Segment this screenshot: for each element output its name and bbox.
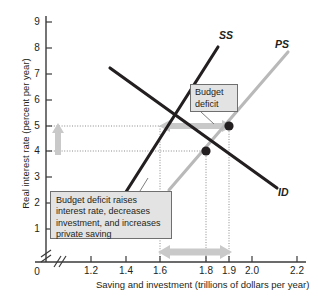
- curves: [110, 47, 288, 195]
- x-tick-label-1-4: 1.4: [113, 265, 139, 276]
- x-tick-label-2-0: 2.0: [239, 265, 265, 276]
- callout-explanation: Budget deficit raises interest rate, dec…: [50, 191, 172, 239]
- x-axis-title: Saving and investment (trillions of doll…: [96, 279, 309, 290]
- interest-rate-rise-arrow: [52, 123, 64, 155]
- equilibrium-dot-original: [224, 121, 233, 130]
- x-axis-ticks: [91, 256, 297, 262]
- curve-label-ss: SS: [219, 29, 233, 41]
- explanation-leader: [140, 178, 148, 191]
- curve-label-ps: PS: [275, 38, 289, 50]
- callout-explanation-line2: interest rate, decreases: [56, 206, 166, 217]
- x-tick-label-1-2: 1.2: [78, 265, 104, 276]
- x-tick-label-1-6: 1.6: [147, 265, 173, 276]
- curve-ps-line: [169, 52, 288, 190]
- private-saving-increase-arrow: [158, 245, 232, 259]
- budget-deficit-leader: [201, 112, 214, 124]
- equilibrium-dot-new: [201, 146, 210, 155]
- curve-ss-line: [124, 47, 218, 195]
- callout-explanation-line4: private saving: [56, 229, 166, 240]
- x-tick-label-2-2: 2.2: [284, 265, 310, 276]
- economics-chart-figure: 9 8 7 6 5 4 3 2 1 0 1.2 1.4 1.6 1.8 1.9 …: [0, 0, 318, 304]
- y-tick-label-0: 0: [26, 266, 40, 277]
- curve-label-id: ID: [278, 186, 289, 198]
- y-tick-label-1: 1: [26, 223, 40, 234]
- chart-canvas: [0, 0, 318, 304]
- callout-explanation-line3: investment, and increases: [56, 218, 166, 229]
- callout-explanation-line1: Budget deficit raises: [56, 195, 166, 206]
- y-axis-title: Real interest rate (percent per year): [20, 49, 31, 219]
- callout-budget-deficit: Budget deficit: [190, 84, 238, 112]
- callout-budget-deficit-line2: deficit: [195, 99, 234, 111]
- y-tick-label-9: 9: [26, 16, 40, 27]
- callout-budget-deficit-line1: Budget: [195, 87, 234, 99]
